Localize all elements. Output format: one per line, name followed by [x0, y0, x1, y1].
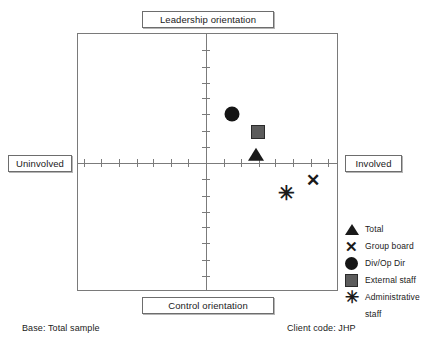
legend-item-label: External staff: [365, 275, 416, 285]
legend-item-circle[interactable]: Div/Op Dir: [343, 255, 435, 271]
chart-page: Leadership orientation Uninvolved Involv…: [0, 0, 435, 343]
axis-caption-involved: Involved: [345, 155, 402, 172]
legend-item-square[interactable]: External staff: [343, 272, 435, 288]
legend-item-label: Total: [365, 224, 383, 234]
axis-caption-uninvolved: Uninvolved: [8, 155, 72, 172]
legend-label-wrap: staff: [365, 309, 435, 319]
square-icon: [343, 272, 360, 288]
legend-item-label: Group board: [365, 241, 414, 251]
axis-caption-control-orientation: Control orientation: [142, 297, 274, 314]
axis-caption-leadership-orientation: Leadership orientation: [142, 11, 274, 28]
axes-lines: [78, 34, 337, 290]
triangle-icon: [343, 221, 360, 237]
circle-icon: [343, 255, 360, 271]
legend-item-label: Administrative: [365, 292, 420, 302]
legend-item-cross[interactable]: ✕Group board: [343, 238, 435, 254]
plot-area: ✕✳: [77, 33, 338, 291]
footer-client-code: Client code: JHP: [287, 323, 356, 333]
legend-item-asterisk[interactable]: ✳Administrative: [343, 289, 435, 305]
cross-icon: ✕: [343, 238, 360, 254]
asterisk-icon: ✳: [343, 289, 360, 305]
footer-base-note: Base: Total sample: [22, 323, 100, 333]
legend-item-label: Div/Op Dir: [365, 258, 405, 268]
chart-legend: Total✕Group boardDiv/Op DirExternal staf…: [343, 221, 435, 319]
legend-item-triangle[interactable]: Total: [343, 221, 435, 237]
